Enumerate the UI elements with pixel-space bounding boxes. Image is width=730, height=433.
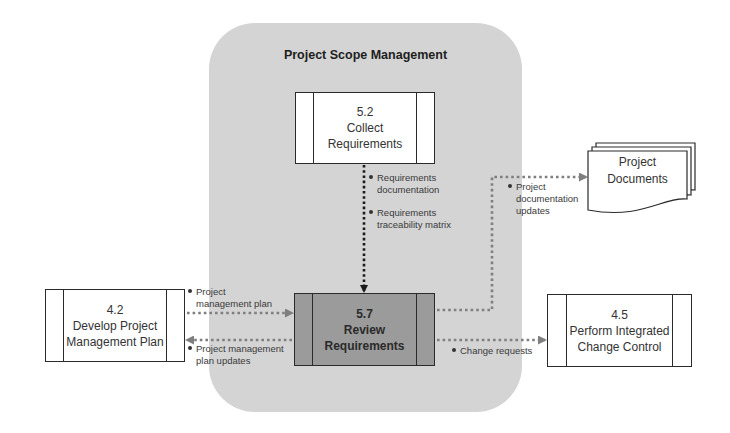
label-requirements-documentation: Requirements documentation — [369, 172, 439, 196]
process-number: 4.2 — [107, 302, 124, 318]
process-number: 4.5 — [611, 307, 628, 323]
bullet-icon — [188, 289, 192, 293]
process-left-bar — [46, 290, 64, 361]
process-name-line2: Management Plan — [66, 334, 163, 350]
process-name-line2: Requirements — [324, 338, 404, 354]
connector-lines — [0, 0, 730, 433]
process-integrated-change-control: 4.5 Perform Integrated Change Control — [547, 294, 692, 367]
process-collect-requirements: 5.2 Collect Requirements — [295, 92, 435, 164]
process-name-line2: Change Control — [577, 339, 661, 355]
process-review-requirements: 5.7 Review Requirements — [294, 293, 435, 366]
process-left-bar — [296, 93, 314, 163]
process-name-line1: Review — [344, 322, 385, 338]
process-left-bar — [295, 294, 313, 365]
process-name-line2: Requirements — [328, 136, 403, 152]
document-line1: Project — [588, 154, 687, 171]
bullet-icon — [508, 184, 512, 188]
process-right-bar — [166, 290, 184, 361]
process-develop-pm-plan: 4.2 Develop Project Management Plan — [45, 289, 185, 362]
process-left-bar — [548, 295, 567, 366]
bullet-icon — [188, 346, 192, 350]
label-project-management-plan: Project management plan — [188, 286, 272, 310]
process-name-line1: Perform Integrated — [569, 323, 669, 339]
project-documents: Project Documents — [588, 154, 687, 188]
process-right-bar — [416, 93, 434, 163]
bullet-icon — [369, 210, 373, 214]
process-name-line1: Develop Project — [73, 318, 158, 334]
bullet-icon — [369, 175, 373, 179]
label-pm-plan-updates: Project management plan updates — [188, 343, 284, 367]
process-name-line1: Collect — [347, 120, 384, 136]
label-project-documentation-updates: Project documentation updates — [508, 181, 578, 217]
label-change-requests: Change requests — [452, 345, 532, 357]
process-number: 5.2 — [357, 104, 374, 120]
process-right-bar — [416, 294, 434, 365]
process-right-bar — [672, 295, 691, 366]
bullet-icon — [452, 348, 456, 352]
process-number: 5.7 — [356, 306, 373, 322]
label-requirements-traceability-matrix: Requirements traceability matrix — [369, 207, 451, 231]
document-line2: Documents — [588, 171, 687, 188]
